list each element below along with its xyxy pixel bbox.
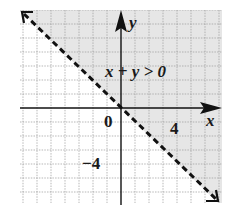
inequality-graph: y x 0 4 −4 x + y > 0 — [0, 0, 237, 212]
y-tick-label: −4 — [82, 154, 101, 173]
inequality-label: x + y > 0 — [104, 62, 166, 81]
x-tick-label: 4 — [170, 119, 179, 138]
x-axis-label: x — [205, 111, 215, 130]
y-axis-label: y — [127, 13, 137, 32]
origin-label: 0 — [104, 112, 113, 131]
